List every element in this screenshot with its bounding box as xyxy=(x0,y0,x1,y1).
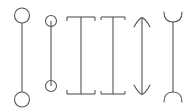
sample-open-circle-terminator xyxy=(15,8,30,107)
line-terminator-figure xyxy=(0,0,194,112)
cup-arc-icon-bottom xyxy=(164,92,182,102)
sample-curved-arrow-terminator xyxy=(134,18,150,95)
open-circle-icon-top xyxy=(15,8,30,23)
terminator-samples-canvas xyxy=(0,0,194,112)
sample-divided-circle-terminator xyxy=(46,16,57,92)
sample-wide-bracket-terminator xyxy=(67,17,95,94)
cup-arc-icon-top xyxy=(164,12,182,22)
sample-narrow-bracket-terminator xyxy=(101,17,125,94)
open-circle-icon-bottom xyxy=(15,92,30,107)
sample-cup-arc-terminator xyxy=(164,12,182,102)
